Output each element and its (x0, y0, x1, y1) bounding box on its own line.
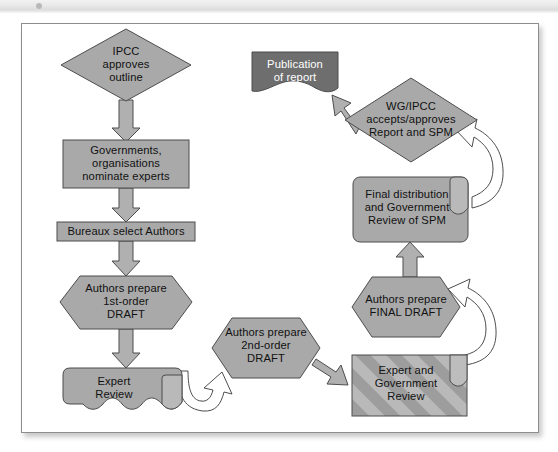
label-line: Expert and (352, 364, 460, 377)
label-authors-prepare-final-draft: Authors prepare FINAL DRAFT (352, 293, 460, 319)
label-line: and Government (352, 201, 462, 214)
label-expert-and-government-review: Expert and Government Review (352, 364, 460, 404)
label-line: Report and SPM (345, 126, 477, 139)
label-line: Government (352, 377, 460, 390)
label-line: Review of SPM (352, 214, 462, 227)
label-wg-ipcc-accepts-approves: WG/IPCC accepts/approves Report and SPM (345, 100, 477, 140)
label-line: 2nd-order (212, 339, 320, 352)
label-expert-review: Expert Review (63, 375, 165, 401)
label-line: IPCC (61, 45, 191, 58)
label-line: nominate experts (60, 170, 192, 183)
figure-page: IPCC approves outline Governments, organ… (0, 0, 558, 452)
label-line: Authors prepare (352, 293, 460, 306)
label-line: approves (61, 58, 191, 71)
label-line: Review (352, 390, 460, 403)
label-line: Bureaux select Authors (57, 225, 195, 238)
label-line: Authors prepare (60, 282, 192, 295)
label-authors-prepare-first-order-draft: Authors prepare 1st-order DRAFT (60, 282, 192, 322)
scan-artifact-bar (0, 0, 558, 13)
label-final-distribution-government-review-spm: Final distribution and Government Review… (352, 188, 462, 228)
label-line: Review (63, 388, 165, 401)
label-line: organisations (60, 157, 192, 170)
label-line: DRAFT (212, 352, 320, 365)
label-authors-prepare-second-order-draft: Authors prepare 2nd-order DRAFT (212, 326, 320, 366)
scan-speck-icon (36, 3, 42, 9)
label-line: 1st-order (60, 295, 192, 308)
label-line: Governments, (60, 144, 192, 157)
label-line: Final distribution (352, 188, 462, 201)
label-line: Authors prepare (212, 326, 320, 339)
label-line: DRAFT (60, 308, 192, 321)
label-line: outline (61, 71, 191, 84)
label-governments-nominate-experts: Governments, organisations nominate expe… (60, 144, 192, 184)
label-line: Expert (63, 375, 165, 388)
label-line: Publication (252, 58, 338, 71)
label-line: WG/IPCC (345, 100, 477, 113)
label-line: accepts/approves (345, 113, 477, 126)
label-ipcc-approves-outline: IPCC approves outline (61, 45, 191, 85)
label-bureaux-select-authors: Bureaux select Authors (57, 225, 195, 238)
label-publication-of-report: Publication of report (252, 58, 338, 84)
label-line: of report (252, 71, 338, 84)
label-line: FINAL DRAFT (352, 306, 460, 319)
